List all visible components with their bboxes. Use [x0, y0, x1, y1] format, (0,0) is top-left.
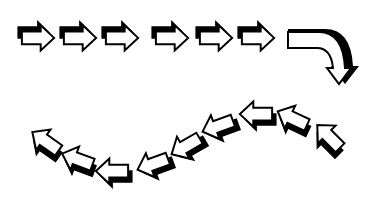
block-arrow-right-icon	[17, 20, 59, 54]
block-arrow-right-icon	[195, 20, 237, 54]
block-arrow-right-icon	[101, 20, 143, 54]
block-arrow-right-icon	[237, 20, 279, 54]
curved-turn-arrow-icon	[285, 26, 361, 86]
block-arrow-left-icon	[235, 98, 277, 132]
block-arrow-right-icon	[151, 20, 193, 54]
block-arrow-right-icon	[59, 20, 101, 54]
